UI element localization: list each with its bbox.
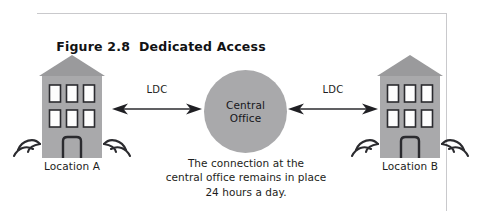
node-location-b: Location B	[350, 52, 470, 182]
link-left: LDC	[112, 84, 202, 130]
building-roof	[377, 55, 443, 76]
node-central-office: Central Office	[204, 70, 287, 153]
figure-canvas: Figure 2.8Dedicated Access	[0, 0, 491, 211]
bush-left-icon	[352, 140, 378, 156]
node-label-location-a: Location A	[12, 160, 132, 172]
central-office-line-2: Office	[230, 112, 261, 125]
office-building-icon	[350, 52, 470, 162]
double-headed-arrow-icon	[112, 101, 202, 117]
figure-title-text: Dedicated Access	[139, 39, 266, 54]
building-windows-row-1	[388, 85, 433, 102]
building-roof	[39, 55, 105, 76]
bush-left-icon	[14, 140, 40, 156]
page-rule-top	[37, 13, 447, 14]
node-label-location-b: Location B	[350, 160, 470, 172]
bush-right-icon	[442, 140, 468, 156]
caption-line-3: 24 hours a day.	[160, 185, 332, 199]
building-windows-row-2	[50, 110, 95, 127]
building-windows-row-2	[388, 110, 433, 127]
caption-line-2: central office remains in place	[160, 170, 332, 184]
figure-caption: The connection at the central office rem…	[160, 156, 332, 199]
caption-line-1: The connection at the	[160, 156, 332, 170]
building-windows-row-1	[50, 85, 95, 102]
link-label-left: LDC	[112, 84, 202, 95]
central-office-line-1: Central	[226, 99, 265, 112]
bush-right-icon	[104, 140, 130, 156]
